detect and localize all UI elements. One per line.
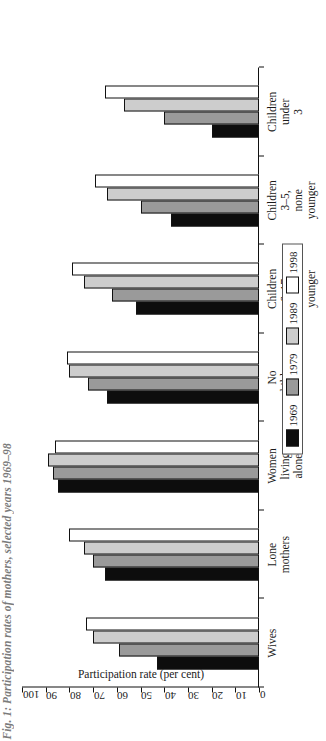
legend-label: 1979 bbox=[287, 353, 299, 375]
x-axis-tick bbox=[259, 243, 264, 244]
bar-1979 bbox=[141, 200, 260, 213]
figure-canvas: Fig. 1: Participation rates of mothers, … bbox=[0, 0, 326, 741]
bar-1989 bbox=[93, 630, 259, 643]
legend-swatch bbox=[286, 276, 299, 293]
bar-1989 bbox=[84, 275, 259, 288]
y-axis-tick-label: 0 bbox=[260, 689, 266, 701]
x-axis-tick bbox=[259, 597, 264, 598]
bar-group: Wives bbox=[22, 598, 259, 687]
bar-group: Lone mothers bbox=[22, 510, 259, 599]
bar-1989 bbox=[107, 187, 259, 200]
legend-label: 1989 bbox=[287, 302, 299, 324]
bar-1969 bbox=[212, 124, 259, 137]
legend-swatch bbox=[286, 378, 299, 395]
legend-item: 1998 bbox=[286, 251, 299, 293]
bar-group: Women living alone bbox=[22, 421, 259, 510]
y-axis-tick: 0 bbox=[259, 687, 260, 692]
y-axis-tick-label: 20 bbox=[212, 689, 223, 701]
chart-legend: 1969197919891998 bbox=[282, 243, 303, 454]
y-axis-tick: 60 bbox=[117, 687, 118, 692]
legend-item: 1979 bbox=[286, 353, 299, 395]
category-label: Wives bbox=[266, 628, 279, 657]
y-axis-tick: 80 bbox=[69, 687, 70, 692]
bar-group: Children under 3 bbox=[22, 67, 259, 156]
chart-plot-area: Participation rate (per cent) 0102030405… bbox=[22, 67, 259, 687]
y-axis-tick: 100 bbox=[22, 687, 23, 692]
y-axis-tick-label: 60 bbox=[117, 689, 128, 701]
y-axis-tick: 40 bbox=[164, 687, 165, 692]
y-axis-tick-label: 50 bbox=[141, 689, 152, 701]
y-axis-tick-label: 10 bbox=[236, 689, 247, 701]
x-axis-tick bbox=[259, 155, 264, 156]
bar-1979 bbox=[53, 466, 259, 479]
y-axis-tick: 30 bbox=[188, 687, 189, 692]
y-axis-tick: 10 bbox=[235, 687, 236, 692]
y-axis-tick-label: 80 bbox=[70, 689, 81, 701]
x-axis-tick bbox=[259, 686, 264, 687]
x-axis-tick bbox=[259, 332, 264, 333]
y-axis-tick: 20 bbox=[212, 687, 213, 692]
bar-1979 bbox=[93, 554, 259, 567]
y-axis-tick: 70 bbox=[93, 687, 94, 692]
bar-1969 bbox=[58, 479, 259, 492]
bar-1979 bbox=[112, 288, 259, 301]
bar-1969 bbox=[171, 213, 259, 226]
category-label: Children under 3 bbox=[266, 89, 305, 133]
bar-1969 bbox=[136, 301, 259, 314]
bar-1969 bbox=[105, 567, 259, 580]
legend-label: 1998 bbox=[287, 251, 299, 273]
bar-1989 bbox=[48, 453, 259, 466]
bar-1998 bbox=[67, 351, 259, 364]
bar-1989 bbox=[124, 98, 259, 111]
x-axis-tick bbox=[259, 66, 264, 67]
x-axis-tick bbox=[259, 509, 264, 510]
legend-swatch bbox=[286, 429, 299, 446]
y-axis-tick: 90 bbox=[46, 687, 47, 692]
y-axis-tick-label: 40 bbox=[165, 689, 176, 701]
y-axis-tick-label: 30 bbox=[188, 689, 199, 701]
y-axis-tick-label: 100 bbox=[23, 689, 40, 701]
category-label: Lone mothers bbox=[266, 532, 292, 576]
bar-1969 bbox=[107, 390, 259, 403]
bar-1998 bbox=[69, 528, 259, 541]
bar-1998 bbox=[95, 174, 259, 187]
bar-group: Children 6–17, none younger bbox=[22, 244, 259, 333]
bar-1998 bbox=[86, 617, 259, 630]
bar-group: No children under 18 bbox=[22, 333, 259, 422]
y-axis-tick: 50 bbox=[141, 687, 142, 692]
legend-item: 1969 bbox=[286, 404, 299, 446]
legend-swatch bbox=[286, 327, 299, 344]
bar-1979 bbox=[164, 111, 259, 124]
figure-title: Fig. 1: Participation rates of mothers, … bbox=[1, 443, 13, 739]
bar-1969 bbox=[157, 656, 259, 669]
bar-1998 bbox=[105, 85, 259, 98]
legend-label: 1969 bbox=[287, 404, 299, 426]
category-label: Children 3–5, none younger bbox=[266, 178, 318, 222]
y-axis-tick-label: 90 bbox=[46, 689, 57, 701]
bar-1998 bbox=[55, 440, 259, 453]
legend-item: 1989 bbox=[286, 302, 299, 344]
bar-group: Children 3–5, none younger bbox=[22, 156, 259, 245]
bar-1979 bbox=[119, 643, 259, 656]
bar-1989 bbox=[84, 541, 259, 554]
y-axis-tick-label: 70 bbox=[94, 689, 105, 701]
x-axis-tick bbox=[259, 420, 264, 421]
bar-1989 bbox=[69, 364, 259, 377]
bar-1979 bbox=[88, 377, 259, 390]
bar-1998 bbox=[72, 262, 259, 275]
